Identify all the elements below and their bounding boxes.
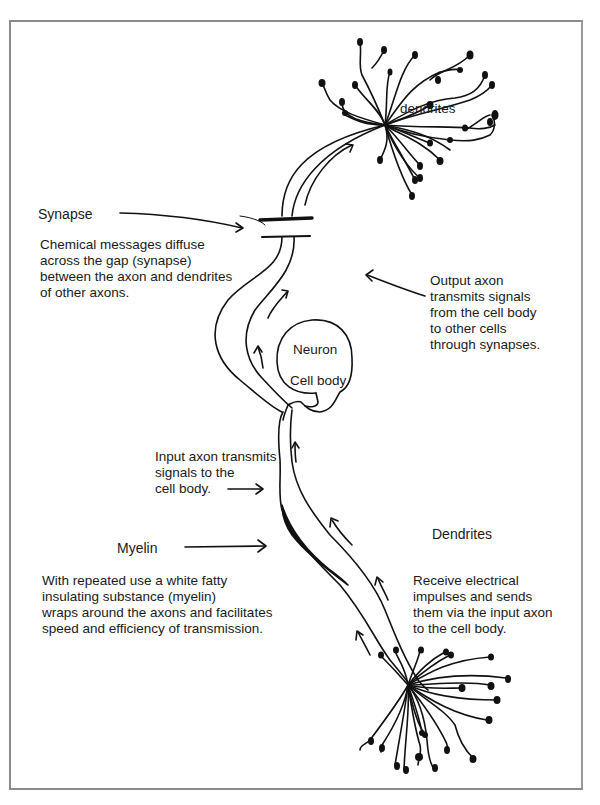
dendrites-bottom-description: Receive electrical impulses and sends th… — [413, 573, 553, 637]
input-axon-right-edge — [291, 410, 429, 690]
dendrites-bottom-line: them via the input axon — [413, 605, 553, 621]
output-axon-line: to other cells — [430, 321, 540, 337]
myelin-line: With repeated use a white fatty — [42, 573, 272, 589]
output-axon-line: through synapses. — [430, 337, 540, 353]
label-neuron: Neuron — [293, 342, 337, 358]
dendrites-bottom-line: to the cell body. — [413, 621, 553, 637]
input-axon-line: signals to the — [155, 465, 277, 481]
myelin-line: insulating substance (myelin) — [42, 589, 272, 605]
dendrites-bottom-line: impulses and sends — [413, 589, 553, 605]
output-axon-description: Output axon transmits signals from the c… — [430, 273, 540, 353]
cell-body-outline — [277, 320, 352, 412]
synapse-line: between the axon and dendrites — [40, 269, 232, 285]
myelin-line: wraps around the axons and facilitates — [42, 605, 272, 621]
synapse-bar-bottom — [262, 236, 310, 237]
dendrites-bottom-line: Receive electrical — [413, 573, 553, 589]
neuron-drawing — [0, 0, 600, 805]
output-axon-line: transmits signals — [430, 289, 540, 305]
synapse-line: of other axons. — [40, 285, 232, 301]
input-axon-line: Input axon transmits — [155, 449, 277, 465]
label-dendrites-top: dendrites — [400, 101, 456, 117]
synapse-description: Chemical messages diffuse across the gap… — [40, 237, 232, 301]
myelin-sheath — [282, 505, 348, 585]
label-myelin-title: Myelin — [117, 540, 157, 556]
synapse-line: across the gap (synapse) — [40, 253, 232, 269]
label-cell-body: Cell body — [290, 373, 346, 389]
bottom-dendrites — [360, 650, 506, 770]
synapse-arrow — [120, 213, 242, 228]
input-axon-description: Input axon transmits signals to the cell… — [155, 449, 277, 497]
axon-upper-left-edge — [282, 125, 385, 216]
synapse-line: Chemical messages diffuse — [40, 237, 232, 253]
output-axon-inner — [246, 237, 294, 408]
output-axon-line: Output axon — [430, 273, 540, 289]
myelin-description: With repeated use a white fatty insulati… — [42, 573, 272, 637]
top-dendrites — [322, 42, 495, 195]
myelin-arrow — [185, 546, 265, 547]
input-axon-line: cell body. — [155, 481, 277, 497]
output-axon-line: from the cell body — [430, 305, 540, 321]
arrow-upper-shaft — [305, 145, 352, 205]
label-synapse-title: Synapse — [38, 206, 92, 222]
myelin-line: speed and efficiency of transmission. — [42, 621, 272, 637]
synapse-bar-top — [260, 218, 312, 220]
output-axon-arrow — [367, 275, 425, 296]
label-dendrites-bottom-title: Dendrites — [432, 526, 492, 542]
